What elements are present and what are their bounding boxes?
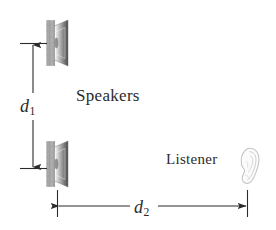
ear-icon xyxy=(236,146,262,186)
d2-symbol: d xyxy=(134,197,143,217)
ear-glyph xyxy=(236,146,262,186)
dimension-d2 xyxy=(58,190,248,217)
loudspeaker-icon-top xyxy=(44,18,74,68)
d2-subscript: 2 xyxy=(144,206,150,219)
loudspeaker-icon-bottom xyxy=(44,139,74,189)
dimension-label-d2: d2 xyxy=(134,197,149,219)
d1-subscript: 1 xyxy=(30,105,36,118)
listener-label: Listener xyxy=(166,151,218,168)
dimension-label-d1: d1 xyxy=(20,96,35,118)
d1-symbol: d xyxy=(20,96,29,116)
dimension-arrows-layer xyxy=(0,0,276,230)
loudspeaker-glyph xyxy=(44,139,74,189)
speakers-listener-diagram: Speakers Listener d1 d2 xyxy=(0,0,276,230)
speakers-label: Speakers xyxy=(76,86,140,106)
loudspeaker-glyph xyxy=(44,18,74,68)
